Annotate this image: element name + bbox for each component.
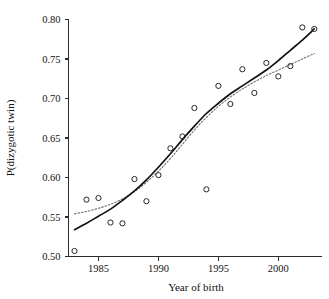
y-tick-label: 0.55 [42,212,60,223]
y-tick-label: 0.65 [42,133,60,144]
y-tick-label: 0.60 [42,172,60,183]
scatter-plot-canvas: 0.500.550.600.650.700.750.80 19851990199… [0,0,329,299]
y-tick-label: 0.75 [42,54,60,65]
x-axis-title: Year of birth [168,281,224,293]
y-axis-title: P(dizygotic twin) [4,99,17,176]
x-tick-label: 1990 [148,263,169,274]
y-tick-label: 0.50 [42,251,60,262]
figure-root: 0.500.550.600.650.700.750.80 19851990199… [0,0,329,299]
y-tick-label: 0.70 [42,93,60,104]
y-tick-label: 0.80 [42,14,60,25]
x-tick-label: 2000 [268,263,289,274]
x-tick-label: 1995 [208,263,229,274]
x-tick-label: 1985 [88,263,109,274]
